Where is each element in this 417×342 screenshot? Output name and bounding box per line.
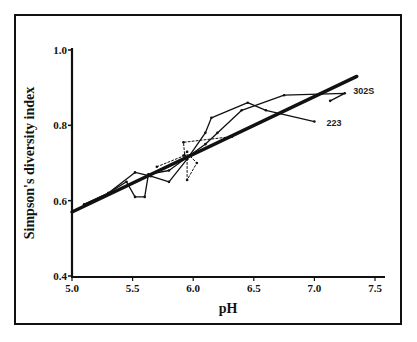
- data-point: [107, 192, 110, 195]
- data-point: [149, 175, 152, 178]
- data-point: [231, 135, 234, 138]
- data-point: [210, 117, 213, 120]
- data-point: [143, 196, 146, 199]
- y-axis-title: Simpson's diversity index: [22, 87, 37, 239]
- x-tick-label: 7.5: [368, 282, 382, 294]
- data-point: [168, 169, 171, 172]
- y-tick-label: 1.0: [53, 44, 67, 56]
- series-group: [72, 76, 357, 212]
- series-label: 302S: [353, 86, 374, 96]
- axes: 0.40.60.81.05.05.56.06.57.07.5: [53, 44, 385, 294]
- x-tick-label: 6.5: [247, 282, 261, 294]
- data-point: [186, 179, 189, 182]
- data-point: [188, 154, 191, 157]
- data-point: [283, 94, 286, 97]
- data-point: [186, 150, 189, 153]
- series-regression: [72, 76, 357, 212]
- x-tick-label: 7.0: [308, 282, 322, 294]
- x-tick-label: 6.0: [186, 282, 200, 294]
- data-point: [134, 171, 137, 174]
- data-point: [168, 181, 171, 184]
- x-axis-title: pH: [219, 301, 238, 316]
- data-point: [329, 100, 332, 103]
- data-point: [134, 196, 137, 199]
- x-tick-label: 5.5: [126, 282, 140, 294]
- data-point: [147, 173, 150, 176]
- data-point: [240, 109, 243, 112]
- line-chart: 0.40.60.81.05.05.56.06.57.07.5 pHSimpson…: [0, 0, 417, 342]
- data-point: [204, 132, 207, 135]
- data-point: [182, 154, 185, 157]
- y-tick-label: 0.4: [53, 270, 67, 282]
- data-point: [216, 132, 219, 135]
- x-tick-label: 5.0: [65, 282, 79, 294]
- data-point: [204, 143, 207, 146]
- data-point: [182, 141, 185, 144]
- series-label: 223: [327, 118, 342, 128]
- data-point: [83, 203, 86, 206]
- data-point: [343, 92, 346, 95]
- data-point: [156, 165, 159, 168]
- data-point: [246, 101, 249, 104]
- data-point: [196, 162, 199, 165]
- data-point: [125, 181, 128, 184]
- data-point: [265, 109, 268, 112]
- data-point: [313, 120, 316, 123]
- y-tick-label: 0.8: [53, 119, 67, 131]
- y-tick-label: 0.6: [53, 195, 67, 207]
